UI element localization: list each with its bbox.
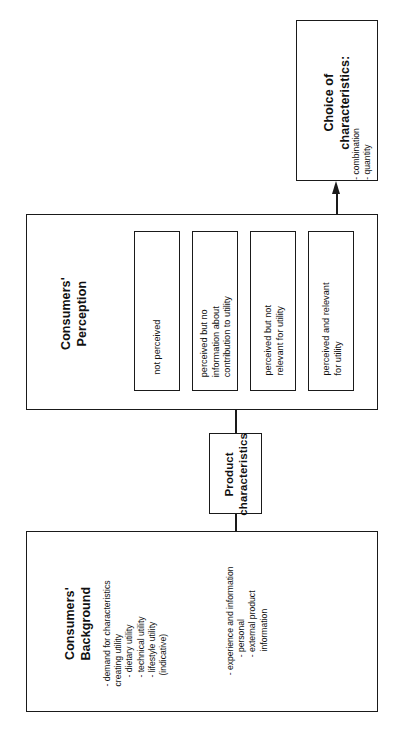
background-item: (indicative) <box>158 634 169 676</box>
perception-category-label: perceived and relevant for utility <box>321 248 344 376</box>
product-title-line2: characteristics <box>238 433 250 516</box>
connector-perception-to-choice-line <box>336 192 338 214</box>
background-item: - demand for characteristics <box>102 580 112 686</box>
choice-title-line2: characteristics: <box>338 56 352 150</box>
background-item: creating utility <box>114 634 124 687</box>
perception-title: Consumers' Perception <box>59 247 90 381</box>
choice-item-combination: - combination <box>351 128 361 180</box>
perception-category-label: perceived but not relevant for utility <box>263 248 286 376</box>
background-item: - technical utility <box>136 616 147 677</box>
background-item: - personal <box>236 619 247 657</box>
diagram-canvas: Choice of characteristics: - combination… <box>0 0 395 729</box>
background-title-line1: Consumers' <box>63 587 77 660</box>
product-title: Product characteristics <box>222 423 251 526</box>
node-choice-of-characteristics: Choice of characteristics: - combination… <box>296 20 378 181</box>
product-title-line1: Product <box>223 452 235 496</box>
perception-category-box: perceived but not relevant for utility <box>250 231 296 391</box>
perception-title-line1: Consumers' <box>59 277 73 350</box>
choice-item-quantity: - quantity <box>362 144 372 179</box>
background-item: - dietary utility <box>125 625 136 678</box>
perception-category-box: perceived but no information about contr… <box>192 231 238 391</box>
choice-title: Choice of characteristics: <box>322 36 353 170</box>
choice-title-line1: Choice of <box>322 74 336 132</box>
perception-category-box: not perceived <box>134 231 180 391</box>
perception-category-label: perceived but no information about contr… <box>199 249 234 377</box>
background-item: - experience and information <box>225 566 235 675</box>
background-item: - lifestyle utility <box>147 622 158 678</box>
choice-items: - combination - quantity <box>351 50 372 180</box>
background-title: Consumers' Background <box>63 557 94 691</box>
perception-title-line2: Perception <box>75 281 89 347</box>
perception-category-box: perceived and relevant for utility <box>308 231 354 391</box>
background-item: - external product <box>247 590 258 657</box>
background-title-line2: Background <box>79 587 93 661</box>
node-consumers-perception: Consumers' Perception not perceived perc… <box>26 214 378 410</box>
node-product-characteristics: Product characteristics <box>209 433 262 514</box>
background-item: information <box>258 609 269 652</box>
background-group-two: - experience and information - personal … <box>225 515 270 675</box>
node-consumers-background: Consumers' Background - demand for chara… <box>26 531 378 712</box>
background-group-one: - demand for characteristics creating ut… <box>102 527 169 687</box>
perception-category-label: not perceived <box>152 247 164 375</box>
arrow-head-to-choice <box>332 181 340 194</box>
